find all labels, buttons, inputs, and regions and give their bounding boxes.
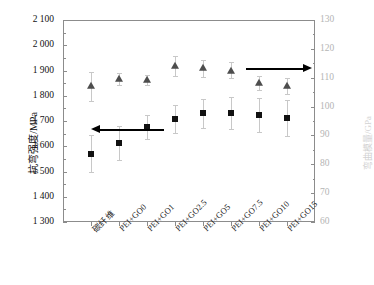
data-point-triangle	[227, 66, 235, 73]
y-axis-right-minor-tick	[313, 179, 316, 180]
data-point-triangle	[283, 81, 291, 88]
error-bar-cap	[173, 133, 178, 134]
y-axis-left-tick	[63, 121, 67, 122]
right-arrow-head	[303, 64, 312, 72]
left-arrow-line	[98, 129, 164, 131]
error-bar-cap	[89, 101, 94, 102]
y-axis-right-tick	[311, 20, 315, 21]
error-bar-cap	[89, 172, 94, 173]
y-axis-left-minor-tick	[63, 83, 66, 84]
y-axis-right-tick	[311, 107, 315, 108]
error-bar-cap	[229, 97, 234, 98]
error-bar-cap	[201, 77, 206, 78]
y-axis-left-minor-tick	[63, 134, 66, 135]
error-bar-cap	[173, 76, 178, 77]
y-axis-right-tick-label: 120	[320, 44, 334, 54]
data-point-square	[200, 110, 206, 116]
y-axis-left-tick	[63, 20, 67, 21]
data-point-square	[172, 116, 178, 122]
error-bar-cap	[201, 60, 206, 61]
data-point-square	[228, 110, 234, 116]
error-bar-cap	[145, 139, 150, 140]
y-axis-left-tick-label: 2 100	[33, 15, 54, 25]
y-axis-left-minor-tick	[63, 58, 66, 59]
error-bar-cap	[117, 126, 122, 127]
error-bar-cap	[117, 85, 122, 86]
data-point-triangle	[87, 82, 95, 89]
y-axis-right-tick	[311, 78, 315, 79]
data-point-square	[116, 140, 122, 146]
plot-area	[63, 20, 315, 222]
y-axis-right-title: 弯曲模量/GPa	[361, 116, 374, 170]
left-arrow-head	[91, 125, 100, 133]
y-axis-right-tick	[311, 164, 315, 165]
error-bar-cap	[201, 128, 206, 129]
y-axis-right-tick	[311, 135, 315, 136]
y-axis-left-tick	[63, 222, 67, 223]
error-bar-cap	[229, 78, 234, 79]
y-axis-left-tick	[63, 146, 67, 147]
y-axis-left-tick-label: 1 700	[33, 116, 54, 126]
error-bar-cap	[285, 100, 290, 101]
error-bar-cap	[117, 160, 122, 161]
y-axis-right-tick-label: 110	[320, 73, 334, 83]
error-bar-cap	[285, 94, 290, 95]
y-axis-right-minor-tick	[313, 121, 316, 122]
y-axis-left-tick-label: 1 600	[33, 142, 54, 152]
y-axis-right-tick-label: 100	[320, 102, 334, 112]
error-bar-cap	[173, 105, 178, 106]
error-bar-cap	[229, 129, 234, 130]
error-bar-cap	[285, 78, 290, 79]
y-axis-left-tick-label: 1 400	[33, 192, 54, 202]
data-point-triangle	[143, 76, 151, 83]
y-axis-left-tick-label: 1 300	[33, 217, 54, 227]
y-axis-left-tick	[63, 71, 67, 72]
error-bar-cap	[173, 56, 178, 57]
data-point-triangle	[115, 75, 123, 82]
y-axis-left-tick-label: 1 800	[33, 91, 54, 101]
y-axis-left-tick	[63, 96, 67, 97]
y-axis-right-minor-tick	[313, 150, 316, 151]
y-axis-left-minor-tick	[63, 108, 66, 109]
error-bar-cap	[257, 76, 262, 77]
error-bar-cap	[145, 85, 150, 86]
error-bar-cap	[89, 72, 94, 73]
y-axis-left-tick	[63, 197, 67, 198]
y-axis-right-tick	[311, 49, 315, 50]
y-axis-right-tick-label: 70	[320, 188, 330, 198]
y-axis-left-minor-tick	[63, 33, 66, 34]
y-axis-left-tick-label: 2 000	[33, 41, 54, 51]
data-point-square	[256, 112, 262, 118]
right-arrow-line	[246, 68, 305, 70]
error-bar-cap	[145, 115, 150, 116]
y-axis-right-tick	[311, 193, 315, 194]
y-axis-left-tick	[63, 45, 67, 46]
y-axis-left-minor-tick	[63, 184, 66, 185]
data-point-square	[284, 115, 290, 121]
error-bar-cap	[257, 98, 262, 99]
y-axis-right-minor-tick	[313, 63, 316, 64]
error-bar-cap	[229, 62, 234, 63]
error-bar-cap	[285, 136, 290, 137]
y-axis-left-tick	[63, 172, 67, 173]
y-axis-right-tick-label: 90	[320, 131, 330, 141]
y-axis-right-minor-tick	[313, 92, 316, 93]
y-axis-left-minor-tick	[63, 209, 66, 210]
y-axis-right-tick-label: 80	[320, 160, 330, 170]
error-bar-cap	[257, 90, 262, 91]
y-axis-left-tick-label: 1 500	[33, 167, 54, 177]
y-axis-right-minor-tick	[313, 34, 316, 35]
data-point-triangle	[199, 64, 207, 71]
y-axis-left-tick-label: 1 900	[33, 66, 54, 76]
y-axis-left-minor-tick	[63, 159, 66, 160]
y-axis-right-tick-label: 130	[320, 15, 334, 25]
error-bar-cap	[257, 132, 262, 133]
data-point-square	[88, 151, 94, 157]
data-point-triangle	[171, 61, 179, 68]
y-axis-right-tick	[311, 222, 315, 223]
error-bar-cap	[201, 99, 206, 100]
data-point-triangle	[255, 79, 263, 86]
y-axis-right-tick-label: 60	[320, 217, 330, 227]
error-bar-cap	[89, 135, 94, 136]
